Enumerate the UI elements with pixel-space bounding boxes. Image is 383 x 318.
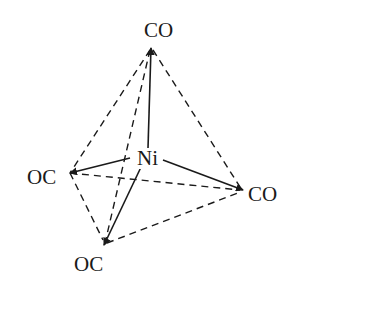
ni-co4-diagram: CO Ni OC CO OC [0, 0, 383, 318]
ligand-top-label: CO [144, 20, 173, 41]
ligand-left-label: OC [27, 167, 56, 188]
ni-center-label: Ni [136, 148, 159, 169]
tetrahedron-drawing [0, 0, 383, 318]
ligand-right-label: CO [248, 184, 277, 205]
ligand-bottom-label: OC [74, 254, 103, 275]
